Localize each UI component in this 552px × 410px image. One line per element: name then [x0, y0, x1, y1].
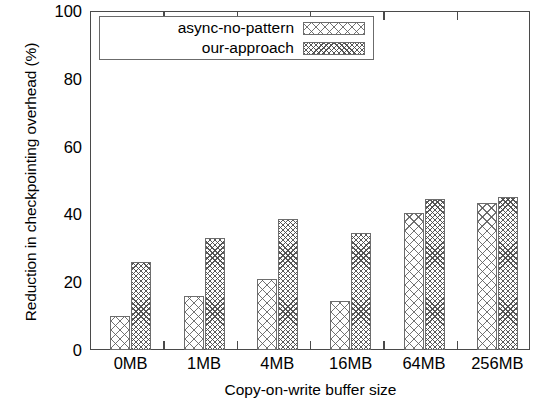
x-tick-mark [310, 341, 311, 350]
x-tick-mark [163, 341, 164, 350]
legend-entry-our-approach: our-approach [100, 38, 375, 58]
x-axis-ticks: 0MB1MB4MB16MB64MB256MB [0, 0, 552, 410]
x-tick-mark [237, 341, 238, 350]
legend: async-no-pattern our-approach [99, 16, 374, 60]
x-tick-mark-top [457, 11, 458, 20]
x-tick-mark [457, 341, 458, 350]
x-axis-title: Copy-on-write buffer size [88, 381, 533, 399]
legend-label: our-approach [202, 40, 294, 56]
x-tick-label: 256MB [452, 355, 542, 372]
legend-swatch-our-approach [303, 42, 365, 55]
x-tick-mark-top [383, 11, 384, 20]
bar-chart-figure: Reduction in checkpointing overhead (%) … [0, 0, 552, 410]
legend-entry-async-no-pattern: async-no-pattern [100, 18, 375, 38]
legend-swatch-async-no-pattern [303, 22, 365, 35]
legend-label: async-no-pattern [178, 20, 294, 36]
x-tick-mark [383, 341, 384, 350]
